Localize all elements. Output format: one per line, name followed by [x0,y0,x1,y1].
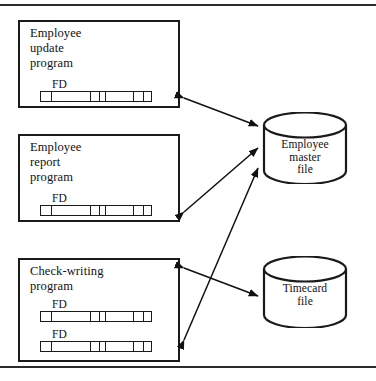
fd-record-segment [134,312,144,321]
fd-record-segment [41,92,52,101]
fd-record-segment [106,92,134,101]
fd-record-segment [144,312,151,321]
connector-checkwriting-to-timecard [184,268,258,296]
connector-update-to-master [184,98,258,126]
fd-label: FD [52,328,152,340]
fd-record-segment [52,206,91,215]
data-store-employee-master-file[interactable]: Employee master file [262,112,348,184]
bottom-rule [0,366,376,368]
fd-record-segment [52,312,91,321]
fd-record-segment [91,312,100,321]
fd-record-segment [52,342,91,351]
fd-record-bar [40,91,152,102]
program-box-employee-update[interactable]: Employee update program FD [18,20,180,108]
program-box-employee-report[interactable]: Employee report program FD [18,134,180,222]
fd-record-segment [41,342,52,351]
fd-record-segment [134,206,144,215]
fd-record-group: FD [40,78,152,102]
fd-record-segment [134,92,144,101]
program-title: Employee update program [30,26,81,71]
fd-record-group: FD [40,328,152,352]
fd-record-segment [134,342,144,351]
fd-record-segment [144,342,151,351]
data-store-timecard-file[interactable]: Timecard file [262,256,348,328]
fd-record-segment [41,206,52,215]
fd-label: FD [52,192,152,204]
fd-label: FD [52,78,152,90]
fd-record-group: FD [40,192,152,216]
fd-record-segment [106,312,134,321]
connector-report-to-master [184,148,258,212]
fd-record-segment [91,206,100,215]
program-title: Check-writing program [30,264,104,294]
connector-checkwriting-to-master [184,168,258,340]
program-title: Employee report program [30,140,81,185]
fd-record-segment [106,206,134,215]
fd-record-segment [52,92,91,101]
fd-record-bar [40,311,152,322]
fd-label: FD [52,298,152,310]
fd-record-segment [106,342,134,351]
top-rule [0,4,376,6]
fd-record-segment [41,312,52,321]
program-box-check-writing[interactable]: Check-writing program FD FD [18,258,180,362]
fd-record-segment [91,342,100,351]
fd-record-segment [144,92,151,101]
fd-record-segment [144,206,151,215]
fd-record-group: FD [40,298,152,322]
fd-record-bar [40,341,152,352]
fd-record-segment [91,92,100,101]
figure-canvas: Employee update program FD Employee repo… [0,0,376,381]
fd-record-bar [40,205,152,216]
data-store-label: Timecard file [262,282,348,307]
data-store-label: Employee master file [262,138,348,176]
